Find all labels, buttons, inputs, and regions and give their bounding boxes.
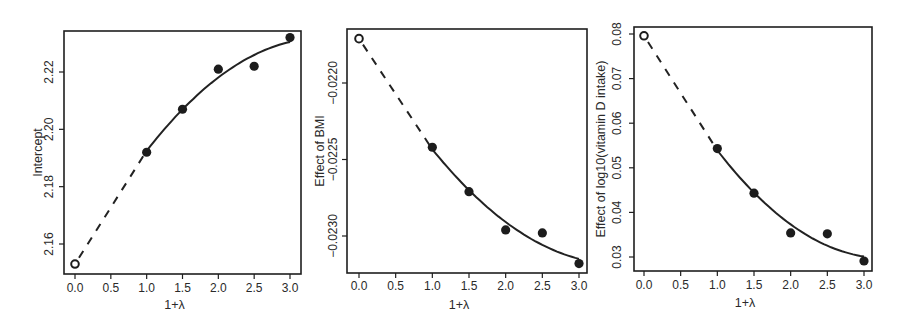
data-point xyxy=(178,105,187,114)
x-axis: 0.00.51.01.52.02.53.0 xyxy=(636,271,873,292)
x-tick-label: 3.0 xyxy=(571,279,588,293)
extrapolation-dashed-line xyxy=(79,156,144,258)
fitted-curve xyxy=(147,42,290,151)
y-tick-label: −0.0220 xyxy=(326,61,340,105)
data-point xyxy=(786,228,795,237)
y-tick-label: 2.22 xyxy=(42,60,56,84)
x-tick-label: 1.5 xyxy=(746,278,763,292)
panel-intercept: 0.00.51.01.52.02.53.01+λ2.162.182.202.22… xyxy=(31,31,301,312)
y-tick-label: 2.16 xyxy=(42,232,56,256)
fitted-curve xyxy=(432,149,579,259)
data-points xyxy=(71,33,294,268)
y-axis-label: Effect of BMI xyxy=(313,115,327,186)
figure: 0.00.51.01.52.02.53.01+λ2.162.182.202.22… xyxy=(0,0,901,329)
x-axis-label: 1+λ xyxy=(164,298,185,312)
x-tick-label: 1.5 xyxy=(174,281,191,295)
data-point xyxy=(428,143,437,152)
extrapolation-dashed-line xyxy=(363,45,429,145)
x-tick-label: 1.0 xyxy=(424,279,441,293)
x-tick-label: 0.5 xyxy=(102,281,119,295)
data-points xyxy=(355,35,583,268)
y-tick-label: 0.05 xyxy=(610,156,624,180)
extrapolated-point-marker xyxy=(71,260,79,268)
three-panel-extrapolation-chart: 0.00.51.01.52.02.53.01+λ2.162.182.202.22… xyxy=(0,0,901,329)
y-axis: 2.162.182.202.22 xyxy=(42,60,64,256)
data-point xyxy=(713,144,722,153)
plot-frame xyxy=(64,31,301,274)
plot-frame xyxy=(634,27,872,271)
data-point xyxy=(501,225,510,234)
x-tick-label: 3.0 xyxy=(282,281,299,295)
y-tick-label: 0.04 xyxy=(610,200,624,224)
data-point xyxy=(574,259,583,268)
y-axis-label: Effect of log10(vitamin D intake) xyxy=(594,61,608,238)
x-tick-label: 2.5 xyxy=(534,279,551,293)
y-axis: −0.0230−0.0225−0.0220 xyxy=(326,61,347,258)
y-axis-label: Intercept xyxy=(31,128,45,177)
x-tick-label: 3.0 xyxy=(856,278,873,292)
x-tick-label: 2.0 xyxy=(210,281,227,295)
x-tick-label: 2.5 xyxy=(246,281,263,295)
extrapolated-point-marker xyxy=(355,35,363,43)
y-tick-label: 0.03 xyxy=(610,245,624,269)
y-tick-label: 2.18 xyxy=(42,175,56,199)
plot-frame xyxy=(347,29,587,273)
x-tick-label: 2.0 xyxy=(782,278,799,292)
data-point xyxy=(859,256,868,265)
data-point xyxy=(464,187,473,196)
x-axis-label: 1+λ xyxy=(735,296,756,310)
y-tick-label: 0.06 xyxy=(610,111,624,135)
data-point xyxy=(214,65,223,74)
y-tick-label: 0.08 xyxy=(610,22,624,46)
x-tick-label: 0.0 xyxy=(636,278,653,292)
x-tick-label: 1.5 xyxy=(461,279,478,293)
panel-effect-of-bmi: 0.00.51.01.52.02.53.01+λ−0.0230−0.0225−0… xyxy=(313,29,588,312)
x-axis: 0.00.51.01.52.02.53.0 xyxy=(351,273,588,293)
panel-effect-of-vitamin-d: 0.00.51.01.52.02.53.01+λ0.030.040.050.06… xyxy=(594,22,873,310)
x-axis-label: 1+λ xyxy=(449,298,470,312)
x-tick-label: 0.5 xyxy=(387,279,404,293)
x-tick-label: 2.0 xyxy=(497,279,514,293)
data-point xyxy=(538,228,547,237)
x-tick-label: 0.0 xyxy=(351,279,368,293)
extrapolated-point-marker xyxy=(640,32,648,40)
data-point xyxy=(250,62,259,71)
y-tick-label: −0.0225 xyxy=(326,137,340,181)
y-axis: 0.030.040.050.060.070.08 xyxy=(610,22,634,269)
data-points xyxy=(640,32,868,266)
x-tick-label: 1.0 xyxy=(709,278,726,292)
fitted-curve xyxy=(717,150,864,256)
extrapolation-dashed-line xyxy=(648,42,714,146)
x-tick-label: 1.0 xyxy=(138,281,155,295)
x-tick-label: 0.0 xyxy=(67,281,84,295)
x-tick-label: 0.5 xyxy=(672,278,689,292)
x-axis: 0.00.51.01.52.02.53.0 xyxy=(67,274,299,295)
data-point xyxy=(823,229,832,238)
x-tick-label: 2.5 xyxy=(819,278,836,292)
data-point xyxy=(749,189,758,198)
data-point xyxy=(142,148,151,157)
data-point xyxy=(285,33,294,42)
y-tick-label: 0.07 xyxy=(610,67,624,91)
y-tick-label: −0.0230 xyxy=(326,214,340,258)
